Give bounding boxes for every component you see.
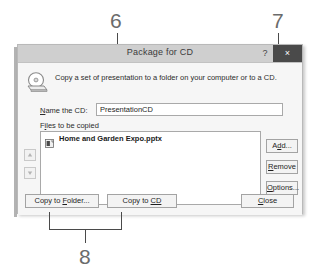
name-label-rest: ame the CD: xyxy=(45,106,87,115)
dialog-description: Copy a set of presentation to a folder o… xyxy=(55,73,277,82)
remove-label-post: emove xyxy=(273,162,296,171)
remove-button[interactable]: Remove xyxy=(266,160,298,174)
powerpoint-file-icon xyxy=(45,134,54,143)
copy-to-folder-button[interactable]: Copy to Folder... xyxy=(25,194,99,208)
add-button[interactable]: Add... xyxy=(266,139,298,153)
close-button[interactable]: Close xyxy=(241,194,294,208)
callout-leader-8-left xyxy=(49,212,50,230)
list-item-label: Home and Garden Expo.pptx xyxy=(59,134,162,143)
callout-leader-8-stem xyxy=(85,229,86,243)
name-the-cd-input[interactable] xyxy=(96,103,283,116)
copy-folder-pre: Copy to xyxy=(34,196,62,205)
close-icon[interactable]: × xyxy=(273,45,302,62)
callout-number-8: 8 xyxy=(79,246,91,267)
list-item[interactable]: Home and Garden Expo.pptx xyxy=(41,132,260,144)
options-button[interactable]: Options... xyxy=(266,181,298,195)
cd-disc-icon xyxy=(25,71,49,93)
name-the-cd-row: Name the CD: xyxy=(40,103,283,117)
dialog-titlebar[interactable]: Package for CD ? × xyxy=(18,45,302,63)
move-up-button[interactable] xyxy=(24,149,36,161)
dialog-bottom-bar: Copy to Folder... Copy to CD Close xyxy=(18,194,302,209)
close-post: lose xyxy=(263,196,277,205)
package-for-cd-dialog: Package for CD ? × Copy a set of present… xyxy=(17,44,303,214)
name-the-cd-label: Name the CD: xyxy=(40,106,88,115)
copy-folder-post: older... xyxy=(67,196,90,205)
copy-cd-pre: Copy to xyxy=(123,196,151,205)
move-buttons-group xyxy=(24,149,37,185)
side-buttons-group: Add... Remove Options... xyxy=(266,139,298,202)
move-down-button[interactable] xyxy=(24,167,36,179)
copy-to-cd-button[interactable]: Copy to CD xyxy=(107,194,177,208)
options-label-post: ptions... xyxy=(273,183,299,192)
files-label-post: les to be copied xyxy=(46,121,99,130)
help-button[interactable]: ? xyxy=(258,46,272,61)
files-to-be-copied-label: Files to be copied xyxy=(40,121,99,130)
add-label-post: d... xyxy=(281,141,291,150)
copy-cd-acc-letter: CD xyxy=(151,196,162,205)
dialog-body: Copy a set of presentation to a folder o… xyxy=(18,63,302,215)
callout-number-6: 6 xyxy=(110,10,122,31)
description-row: Copy a set of presentation to a folder o… xyxy=(25,70,294,96)
callout-leader-8-right xyxy=(121,212,122,230)
callout-number-7: 7 xyxy=(272,10,284,31)
